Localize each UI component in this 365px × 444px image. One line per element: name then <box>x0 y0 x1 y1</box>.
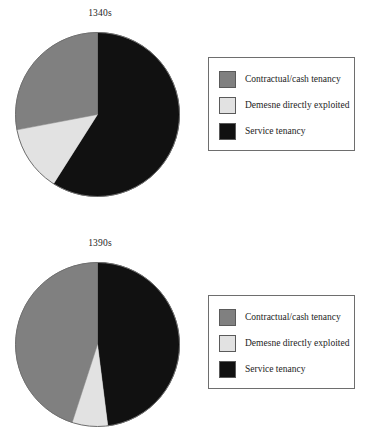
legend-item-demesne: Demesne directly exploited <box>219 331 350 356</box>
legend-list-1340s: Contractual/cash tenancy Demesne directl… <box>219 67 350 145</box>
legend-1390s: Contractual/cash tenancy Demesne directl… <box>208 295 355 389</box>
legend-item-contractual: Contractual/cash tenancy <box>219 305 350 330</box>
pie-title-1340s: 1340s <box>60 8 140 18</box>
pie-title-1390s: 1390s <box>60 238 140 248</box>
pie-slice-service <box>98 263 180 426</box>
legend-1340s: Contractual/cash tenancy Demesne directl… <box>208 57 355 151</box>
pie-chart-1340s: 1340s Contractual/cash tenancy Demesne d… <box>0 0 365 222</box>
legend-swatch-contractual-icon <box>219 71 236 88</box>
pie-graphic-1390s <box>15 262 180 427</box>
pie-svg-1340s <box>15 32 180 197</box>
legend-label-demesne: Demesne directly exploited <box>245 338 349 349</box>
pie-slice-contractual <box>15 33 97 130</box>
legend-label-service: Service tenancy <box>245 126 305 137</box>
legend-item-demesne: Demesne directly exploited <box>219 93 350 118</box>
legend-label-contractual: Contractual/cash tenancy <box>245 312 341 323</box>
legend-swatch-service-icon <box>219 123 236 140</box>
legend-label-demesne: Demesne directly exploited <box>245 100 349 111</box>
pie-slices-1390s <box>16 263 180 427</box>
legend-list-1390s: Contractual/cash tenancy Demesne directl… <box>219 305 350 383</box>
legend-item-service: Service tenancy <box>219 357 350 382</box>
legend-item-service: Service tenancy <box>219 119 350 144</box>
pie-chart-1390s: 1390s Contractual/cash tenancy Demesne d… <box>0 222 365 444</box>
legend-swatch-service-icon <box>219 361 236 378</box>
legend-swatch-demesne-icon <box>219 335 236 352</box>
legend-swatch-contractual-icon <box>219 309 236 326</box>
legend-label-contractual: Contractual/cash tenancy <box>245 74 341 85</box>
pie-graphic-1340s <box>15 32 180 197</box>
legend-swatch-demesne-icon <box>219 97 236 114</box>
pie-svg-1390s <box>15 262 180 427</box>
legend-item-contractual: Contractual/cash tenancy <box>219 67 350 92</box>
legend-label-service: Service tenancy <box>245 364 305 375</box>
pie-slices-1340s <box>15 33 179 197</box>
